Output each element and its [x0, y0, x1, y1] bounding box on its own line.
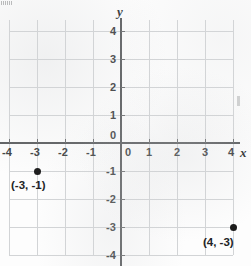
y-tick-minus4 [121, 255, 125, 256]
coordinate-plane: -4 -3 -2 -1 0 1 2 3 4 4 3 2 1 0 -1 -2 -3… [0, 0, 251, 266]
x-tick-minus1 [93, 139, 94, 143]
x-tick-label-minus4: -4 [2, 147, 12, 158]
x-tick-label-1: 1 [146, 147, 152, 158]
x-tick-label-minus2: -2 [58, 147, 68, 158]
x-tick-4 [233, 139, 234, 143]
x-tick-label-minus1: -1 [86, 147, 96, 158]
y-tick-label-minus3: -3 [106, 222, 116, 233]
data-point-1 [34, 168, 41, 175]
gridline-vertical-x-minus3 [37, 20, 38, 255]
x-tick-2 [177, 139, 178, 143]
gridline-vertical-x-2 [177, 20, 178, 255]
y-tick-label-1: 1 [110, 110, 116, 121]
x-tick-label-minus3: -3 [30, 147, 40, 158]
y-tick-label-minus1: -1 [106, 166, 116, 177]
x-tick-label-zero: 0 [125, 147, 131, 158]
x-tick-minus2 [65, 139, 66, 143]
y-tick-minus1 [121, 171, 125, 172]
y-tick-1 [121, 115, 125, 116]
x-tick-label-2: 2 [174, 147, 180, 158]
x-tick-label-4: 4 [228, 147, 234, 158]
y-tick-minus2 [121, 199, 125, 200]
y-tick-label-2: 2 [110, 82, 116, 93]
gridline-vertical-x-minus2 [65, 20, 66, 255]
gridline-vertical-x-minus4 [9, 20, 10, 255]
data-point-2-label: (4, -3) [203, 236, 234, 248]
y-tick-4 [121, 31, 125, 32]
x-tick-label-3: 3 [202, 147, 208, 158]
x-axis-label: x [240, 146, 247, 159]
y-tick-label-4: 4 [110, 26, 116, 37]
data-point-1-label: (-3, -1) [11, 179, 46, 191]
gridline-vertical-x-3 [205, 20, 206, 255]
gridline-vertical-x-minus1 [93, 20, 94, 255]
x-tick-minus4 [9, 139, 10, 143]
y-tick-3 [121, 59, 125, 60]
x-tick-3 [205, 139, 206, 143]
y-tick-label-3: 3 [110, 54, 116, 65]
gridline-vertical-x-1 [149, 20, 150, 255]
scan-artifact-corner [1, 1, 13, 5]
x-tick-1 [149, 139, 150, 143]
y-tick-label-zero: 0 [110, 130, 116, 141]
gridline-vertical-x-4 [233, 20, 234, 255]
data-point-2 [230, 224, 237, 231]
y-axis-label: y [117, 5, 123, 18]
y-tick-label-minus4: -4 [106, 250, 116, 261]
x-axis-line [0, 142, 240, 144]
y-tick-minus3 [121, 227, 125, 228]
x-tick-minus3 [37, 139, 38, 143]
y-tick-2 [121, 87, 125, 88]
scan-artifact-speck [237, 96, 240, 106]
y-tick-label-minus2: -2 [106, 194, 116, 205]
